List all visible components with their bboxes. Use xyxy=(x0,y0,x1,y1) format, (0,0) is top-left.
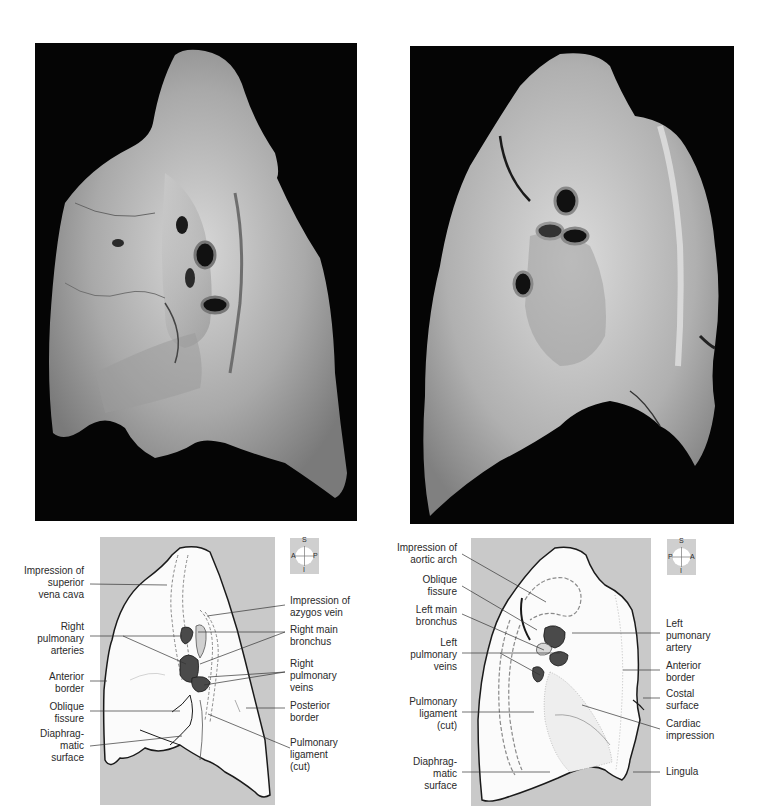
lung-outline xyxy=(478,547,640,801)
label-costal-surface: Costal surface xyxy=(666,688,699,712)
label-pulmonary-ligament: Pulmonary ligament (cut) xyxy=(409,696,457,732)
label-left-pulmonary-artery: Left pumonary artery xyxy=(666,618,710,654)
label-diaphragmatic-surface: Diaphrag- matic surface xyxy=(413,756,457,792)
left-lung-diagram xyxy=(0,0,760,811)
compass-inferior: I xyxy=(680,567,682,574)
label-left-pulmonary-veins: Left pulmonary veins xyxy=(410,637,457,673)
compass-superior: S xyxy=(679,537,684,544)
label-impression-aortic-arch: Impression of aortic arch xyxy=(397,542,457,566)
label-anterior-border: Anterior border xyxy=(666,660,701,684)
left-lung-compass: S I P A xyxy=(667,539,696,575)
label-cardiac-impression: Cardiac impression xyxy=(666,718,714,742)
compass-right: A xyxy=(690,553,695,560)
label-lingula: Lingula xyxy=(666,766,698,778)
label-left-main-bronchus: Left main bronchus xyxy=(416,604,457,628)
label-oblique-fissure: Oblique fissure xyxy=(423,574,457,598)
compass-left: P xyxy=(668,553,673,560)
